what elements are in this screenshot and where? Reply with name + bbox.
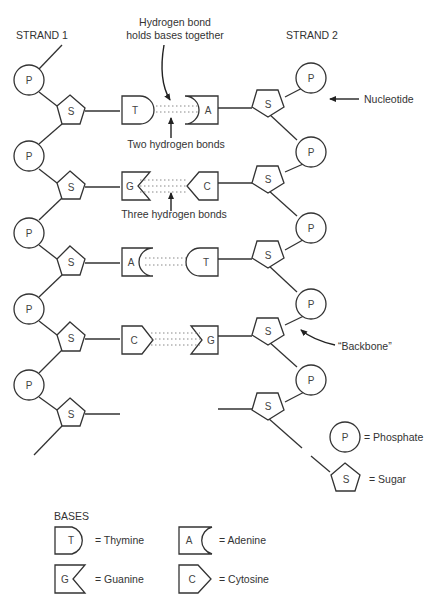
base-pair-4-right: G bbox=[207, 335, 215, 346]
svg-text:S: S bbox=[68, 257, 75, 268]
svg-text:P: P bbox=[26, 380, 33, 391]
base-pair-1-left: T bbox=[132, 105, 138, 116]
base-pair-2-left: G bbox=[126, 181, 134, 192]
legend-adenine-label: = Adenine bbox=[219, 534, 266, 546]
legend-guanine-symbol: G bbox=[61, 574, 69, 585]
svg-text:P: P bbox=[26, 304, 33, 315]
legend-sugar-symbol: S bbox=[343, 474, 350, 485]
svg-text:S: S bbox=[68, 409, 75, 420]
svg-text:P: P bbox=[26, 228, 33, 239]
sugar-symbol: S bbox=[68, 106, 75, 117]
phosphate-symbol: P bbox=[26, 75, 33, 86]
svg-text:S: S bbox=[265, 250, 272, 261]
legend-cytosine-label: = Cytosine bbox=[219, 573, 269, 585]
legend-phosphate-symbol: P bbox=[342, 432, 349, 443]
base-pair-4-left: C bbox=[130, 335, 137, 346]
legend-bases-title: BASES bbox=[54, 510, 89, 522]
base-pair-2-right: C bbox=[203, 181, 210, 192]
legend-thymine-symbol: T bbox=[68, 535, 74, 546]
base-pair-3-right: T bbox=[203, 257, 209, 268]
base-pair-1-right: A bbox=[205, 105, 212, 116]
svg-text:S: S bbox=[265, 326, 272, 337]
svg-text:P: P bbox=[308, 223, 315, 234]
legend-cytosine-symbol: C bbox=[188, 574, 195, 585]
svg-text:P: P bbox=[308, 147, 315, 158]
legend-adenine-symbol: A bbox=[186, 535, 193, 546]
legend-sugar-label: = Sugar bbox=[369, 473, 406, 485]
svg-text:S: S bbox=[68, 182, 75, 193]
legend-thymine-label: = Thymine bbox=[95, 534, 144, 546]
svg-text:S: S bbox=[265, 174, 272, 185]
legend-phosphate-label: = Phosphate bbox=[364, 431, 423, 443]
svg-text:S: S bbox=[68, 333, 75, 344]
svg-text:S: S bbox=[265, 401, 272, 412]
svg-text:P: P bbox=[308, 299, 315, 310]
legend-guanine-label: = Guanine bbox=[95, 573, 144, 585]
svg-text:P: P bbox=[26, 151, 33, 162]
svg-text:P: P bbox=[308, 73, 315, 84]
svg-text:P: P bbox=[308, 375, 315, 386]
svg-text:S: S bbox=[265, 99, 272, 110]
base-pair-3-left: A bbox=[128, 257, 135, 268]
